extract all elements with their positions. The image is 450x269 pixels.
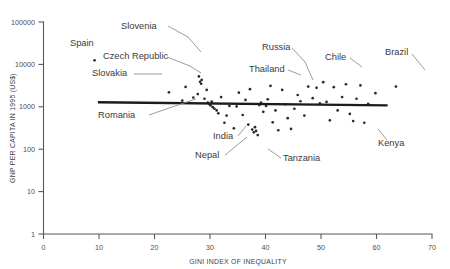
x-tick-label: 0	[42, 243, 46, 252]
data-points-group	[93, 59, 397, 137]
y-axis-title: GNP PER CAPITA IN 1995 (US$)	[9, 73, 17, 183]
data-point	[281, 89, 284, 92]
data-point	[213, 107, 216, 110]
annotation-label-nepal: Nepal	[195, 150, 219, 160]
y-tick-label: 10	[27, 187, 35, 196]
data-point	[332, 86, 335, 89]
data-point	[184, 86, 187, 89]
annotation-leader-line	[168, 26, 201, 52]
annotation-label-india: India	[213, 131, 234, 141]
y-tick-label: 1000	[19, 102, 35, 111]
data-point	[228, 105, 231, 108]
data-point	[345, 83, 348, 86]
x-tick-label: 60	[373, 243, 381, 252]
data-point	[200, 79, 203, 82]
annotation-label-russia: Russia	[262, 42, 291, 52]
annotation-label-czech-republic: Czech Republic	[103, 51, 168, 61]
data-point	[355, 97, 358, 100]
data-point	[198, 75, 201, 78]
data-point	[256, 134, 259, 137]
data-point	[307, 85, 310, 88]
annotation-leader-line	[149, 99, 196, 115]
annotation-leader-line	[292, 48, 313, 80]
data-point	[93, 59, 96, 62]
annotations-group: SpainSloveniaCzech RepublicSlovakiaRoman…	[70, 21, 425, 163]
data-point	[192, 96, 195, 99]
data-point	[274, 109, 277, 112]
annotation-leader-line	[412, 54, 425, 70]
x-tick-label: 20	[151, 243, 159, 252]
y-tick-label: 100	[23, 145, 35, 154]
data-point	[311, 97, 314, 100]
data-point	[271, 121, 274, 124]
data-point	[217, 112, 220, 115]
data-point	[359, 84, 362, 87]
data-point	[293, 107, 296, 110]
data-point	[233, 127, 236, 130]
data-point	[247, 123, 250, 126]
x-axis-title: GINI INDEX OF INEQUALITY	[189, 258, 287, 266]
annotation-leader-line	[238, 126, 246, 136]
data-point	[325, 101, 328, 104]
data-point	[322, 81, 325, 84]
data-point	[252, 131, 255, 134]
y-tick-label: 10000	[15, 60, 35, 69]
annotation-label-romania: Romania	[98, 110, 136, 120]
data-point	[241, 114, 244, 117]
data-point	[329, 119, 332, 122]
chart-canvas: 110100100010000100000 010203040506070 GN…	[0, 0, 450, 269]
data-point	[200, 82, 203, 85]
data-point	[374, 92, 377, 95]
axes-group	[44, 22, 433, 234]
data-point	[251, 128, 254, 131]
data-point	[181, 99, 184, 102]
x-tick-label: 50	[317, 243, 325, 252]
annotation-label-tanzania: Tanzania	[283, 153, 321, 163]
data-point	[238, 91, 241, 94]
data-point	[235, 105, 238, 108]
data-point	[296, 94, 299, 97]
data-point	[249, 88, 252, 91]
annotation-label-spain: Spain	[70, 38, 94, 48]
annotation-leader-line	[167, 57, 201, 73]
trend-line	[98, 102, 388, 105]
data-point	[262, 111, 265, 114]
data-point	[225, 114, 228, 117]
x-axis-ticks: 010203040506070	[42, 234, 437, 252]
data-point	[215, 109, 218, 112]
data-point	[341, 96, 344, 99]
x-tick-label: 70	[428, 243, 436, 252]
data-point	[205, 89, 208, 92]
data-point	[220, 96, 223, 99]
annotation-label-slovakia: Slovakia	[92, 68, 128, 78]
data-point	[299, 100, 302, 103]
data-point	[349, 113, 352, 116]
data-point	[290, 128, 293, 131]
annotation-leader-line	[268, 149, 281, 158]
data-point	[266, 98, 269, 101]
x-tick-label: 30	[206, 243, 214, 252]
x-tick-label: 40	[262, 243, 270, 252]
annotation-label-kenya: Kenya	[378, 138, 405, 148]
data-point	[244, 99, 247, 102]
annotation-label-slovenia: Slovenia	[121, 21, 157, 31]
data-point	[336, 109, 339, 112]
data-point	[277, 129, 280, 132]
scatter-chart-gini-vs-gnp: 110100100010000100000 010203040506070 GN…	[0, 0, 450, 269]
y-tick-label: 1	[31, 230, 35, 239]
annotation-label-thailand: Thailand	[249, 64, 285, 74]
data-point	[269, 85, 272, 88]
data-point	[286, 117, 289, 120]
y-tick-label: 100000	[11, 18, 35, 27]
data-point	[363, 121, 366, 124]
annotation-label-brazil: Brazil	[385, 47, 408, 57]
data-point	[255, 130, 258, 133]
data-point	[352, 120, 355, 123]
x-tick-label: 10	[95, 243, 103, 252]
data-point	[303, 114, 306, 117]
data-point	[196, 93, 199, 96]
data-point	[254, 126, 257, 129]
data-point	[315, 86, 318, 89]
annotation-label-chile: Chile	[325, 52, 346, 62]
data-point	[395, 85, 398, 88]
